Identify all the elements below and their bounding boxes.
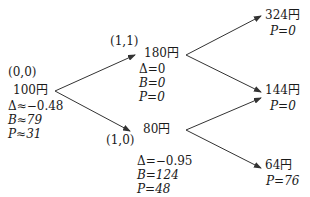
uu-put: P=0 [270, 25, 296, 38]
edge-root-up [55, 55, 135, 91]
up-bond: B=0 [139, 77, 166, 90]
edge-down-dd [186, 130, 261, 168]
down-delta: Δ=−0.95 [137, 155, 193, 168]
down-bond: B=124 [137, 169, 179, 182]
down-price: 80円 [143, 123, 170, 136]
root-delta: Δ≈−0.48 [8, 100, 64, 113]
dd-put: P=76 [266, 175, 299, 188]
edge-root-down [55, 91, 130, 131]
edge-up-uu [186, 16, 261, 55]
down-put: P=48 [137, 183, 170, 196]
root-coord: (0,0) [8, 66, 36, 79]
dd-price: 64円 [265, 159, 292, 172]
root-price: 100円 [13, 84, 48, 97]
edge-up-ud [186, 55, 261, 92]
down-coord: (1,0) [106, 134, 134, 147]
edge-down-ud [186, 98, 261, 130]
root-put: P≈31 [8, 128, 41, 141]
ud-price: 144円 [265, 84, 300, 97]
uu-price: 324円 [265, 9, 300, 22]
up-coord: (1,1) [110, 35, 138, 48]
root-bond: B≈79 [8, 114, 42, 127]
up-price: 180円 [144, 47, 179, 60]
up-delta: Δ=0 [139, 63, 165, 76]
ud-put: P=0 [270, 100, 296, 113]
up-put: P=0 [139, 91, 165, 104]
